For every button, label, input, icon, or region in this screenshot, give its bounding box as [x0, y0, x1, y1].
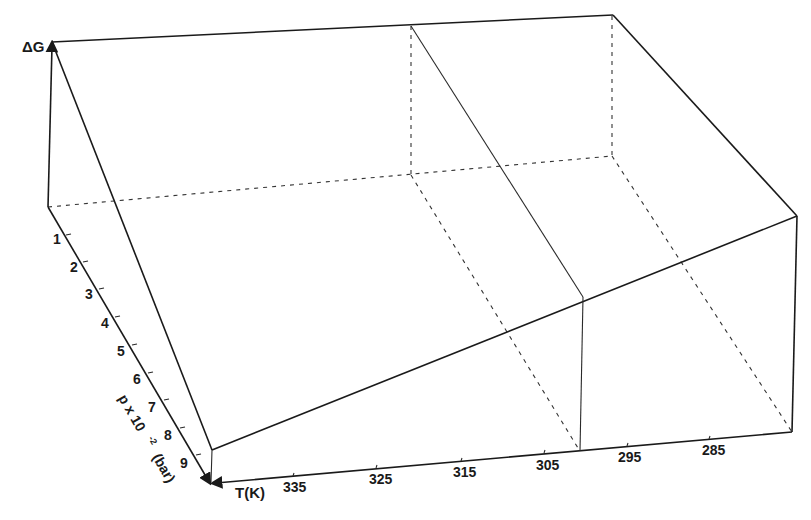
svg-text:9: 9: [180, 455, 188, 471]
temperature-tick-labels: 335 325 315 305 295 285: [283, 442, 726, 495]
svg-text:7: 7: [148, 399, 156, 415]
visible-edges: [48, 15, 797, 483]
svg-text:295: 295: [618, 449, 642, 465]
svg-text:6: 6: [133, 371, 141, 387]
svg-text:4: 4: [101, 315, 109, 331]
svg-text:5: 5: [117, 343, 125, 359]
svg-text:2: 2: [70, 259, 78, 275]
svg-text:1: 1: [53, 231, 61, 247]
surface-diagram: ΔG 1 2 3 4 5 6 7 8 9 p x 10 -2 (bar) T(K…: [0, 0, 811, 520]
svg-text:8: 8: [164, 427, 172, 443]
svg-text:p x 10: p x 10: [115, 392, 149, 435]
svg-text:-2: -2: [146, 434, 159, 446]
delta-g-axis: [48, 46, 52, 207]
svg-text:315: 315: [453, 464, 477, 480]
hidden-edges: [48, 16, 792, 448]
svg-text:285: 285: [702, 442, 726, 458]
svg-text:305: 305: [536, 457, 560, 473]
svg-text:335: 335: [283, 479, 307, 495]
pressure-tick-labels: 1 2 3 4 5 6 7 8 9: [53, 231, 188, 471]
svg-text:(bar): (bar): [149, 450, 178, 485]
svg-text:325: 325: [369, 471, 393, 487]
delta-g-label: ΔG: [22, 38, 44, 55]
pressure-axis: [48, 207, 208, 480]
svg-text:3: 3: [85, 286, 93, 302]
temperature-axis-label: T(K): [235, 484, 265, 501]
